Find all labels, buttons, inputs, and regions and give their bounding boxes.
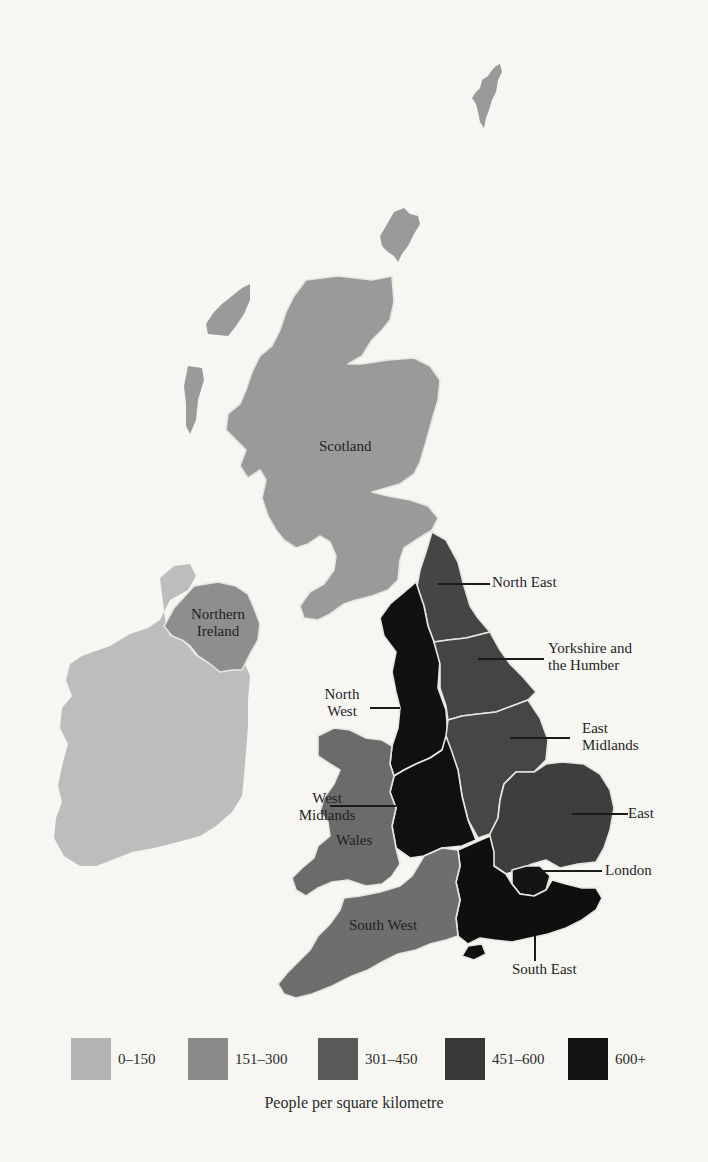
legend: 0–150 151–300 301–450 451–600 600+ (0, 1038, 708, 1080)
legend-swatch (445, 1038, 485, 1080)
leader-west-midlands (330, 805, 396, 807)
legend-label: 451–600 (492, 1051, 545, 1068)
label-west-midlands-line2: Midlands (296, 807, 358, 824)
legend-title: People per square kilometre (0, 1094, 708, 1112)
leader-east-midlands (510, 737, 570, 739)
label-northern-ireland-line1: Northern (186, 606, 250, 623)
label-east-midlands-line1: East (582, 720, 639, 737)
label-east: East (628, 805, 654, 822)
leader-south-east (534, 935, 536, 961)
label-east-midlands: East Midlands (582, 720, 639, 754)
leader-east (572, 813, 628, 815)
label-yorkshire-line2: the Humber (548, 657, 632, 674)
label-northern-ireland: Northern Ireland (186, 606, 250, 640)
label-east-midlands-line2: Midlands (582, 737, 639, 754)
label-london: London (605, 862, 652, 879)
region-east (490, 762, 614, 874)
legend-swatch (318, 1038, 358, 1080)
legend-swatch (188, 1038, 228, 1080)
legend-label: 0–150 (118, 1051, 156, 1068)
leader-north-west (370, 707, 400, 709)
legend-swatch (71, 1038, 111, 1080)
legend-item-600-plus: 600+ (568, 1038, 646, 1080)
label-yorkshire-line1: Yorkshire and (548, 640, 632, 657)
legend-label: 301–450 (365, 1051, 418, 1068)
region-orkney (380, 208, 420, 262)
label-west-midlands: West Midlands (296, 790, 358, 824)
leader-north-east (438, 583, 490, 585)
label-northern-ireland-line2: Ireland (186, 623, 250, 640)
label-wales: Wales (336, 832, 372, 849)
legend-item-0-150: 0–150 (71, 1038, 156, 1080)
legend-label: 600+ (615, 1051, 646, 1068)
uk-population-density-map (0, 0, 708, 1162)
label-north-west-line2: West (320, 703, 364, 720)
legend-item-301-450: 301–450 (318, 1038, 418, 1080)
legend-swatch (568, 1038, 608, 1080)
label-south-west: South West (349, 917, 417, 934)
leader-london (538, 870, 602, 872)
legend-item-151-300: 151–300 (188, 1038, 288, 1080)
legend-label: 151–300 (235, 1051, 288, 1068)
region-shetland (472, 64, 502, 128)
label-north-east: North East (492, 574, 557, 591)
label-north-west: North West (320, 686, 364, 720)
label-yorkshire: Yorkshire and the Humber (548, 640, 632, 674)
label-scotland: Scotland (319, 438, 372, 455)
label-north-west-line1: North (320, 686, 364, 703)
label-south-east: South East (512, 961, 577, 978)
leader-yorkshire (478, 658, 544, 660)
legend-item-451-600: 451–600 (445, 1038, 545, 1080)
